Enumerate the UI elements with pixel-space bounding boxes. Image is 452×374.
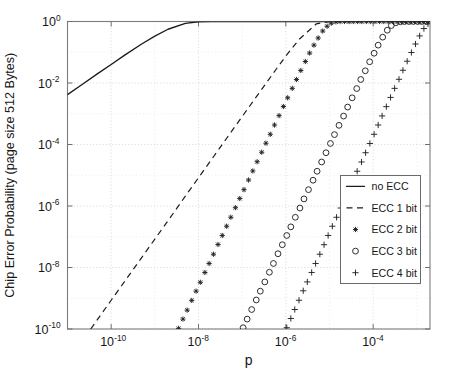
plus-marker bbox=[292, 306, 298, 312]
star-marker bbox=[359, 19, 364, 24]
plus-marker bbox=[333, 214, 339, 220]
plus-marker bbox=[354, 168, 360, 174]
plus-marker bbox=[358, 159, 364, 165]
tick-labels: 10-1010-810-610-410010-210-410-610-810-1… bbox=[35, 13, 384, 349]
plus-marker bbox=[387, 94, 393, 100]
star-marker bbox=[353, 227, 358, 232]
circle-marker bbox=[279, 242, 285, 248]
plus-marker bbox=[392, 85, 398, 91]
y-tick-exponent: -10 bbox=[49, 320, 61, 330]
plus-marker bbox=[396, 76, 402, 82]
plus-marker bbox=[379, 113, 385, 119]
y-tick-exponent: -2 bbox=[52, 74, 60, 84]
star-marker bbox=[259, 150, 264, 155]
star-marker bbox=[176, 326, 181, 331]
plus-marker bbox=[304, 279, 310, 285]
star-marker bbox=[189, 298, 194, 303]
star-marker bbox=[316, 35, 321, 40]
circle-marker bbox=[371, 50, 377, 56]
plus-marker bbox=[362, 150, 368, 156]
circle-marker bbox=[292, 214, 298, 220]
plus-marker bbox=[371, 131, 377, 137]
circle-marker bbox=[284, 233, 290, 239]
star-marker bbox=[237, 196, 242, 201]
y-tick-exponent: -6 bbox=[52, 197, 60, 207]
plus-marker bbox=[317, 251, 323, 257]
x-axis-label: p bbox=[245, 352, 253, 368]
star-marker bbox=[285, 95, 290, 100]
star-marker bbox=[298, 68, 303, 73]
y-tick-exponent: -4 bbox=[52, 136, 60, 146]
legend-label: ECC 2 bit bbox=[372, 223, 417, 235]
circle-marker bbox=[297, 205, 303, 211]
plus-marker bbox=[400, 67, 406, 73]
plus-marker bbox=[325, 232, 331, 238]
legend-label: ECC 3 bit bbox=[372, 245, 417, 257]
star-marker bbox=[372, 19, 377, 24]
star-marker bbox=[303, 59, 308, 64]
circle-marker bbox=[244, 316, 250, 322]
circle-marker bbox=[328, 141, 334, 147]
star-marker bbox=[342, 19, 347, 24]
star-marker bbox=[311, 43, 316, 48]
circle-marker bbox=[341, 113, 347, 119]
circle-marker bbox=[240, 325, 246, 331]
circle-marker bbox=[354, 86, 360, 92]
circle-marker bbox=[301, 196, 307, 202]
plus-marker bbox=[309, 269, 315, 275]
circle-marker bbox=[362, 68, 368, 74]
legend-label: ECC 4 bit bbox=[372, 267, 417, 279]
circle-marker bbox=[266, 269, 272, 275]
star-marker bbox=[250, 168, 255, 173]
circle-marker bbox=[358, 77, 364, 83]
y-tick-label: 10 bbox=[38, 77, 52, 91]
star-marker bbox=[185, 308, 190, 313]
circle-marker bbox=[249, 307, 255, 313]
circle-marker bbox=[380, 34, 386, 40]
y-tick-label: 10 bbox=[38, 138, 52, 152]
y-tick-label: 10 bbox=[38, 200, 52, 214]
plus-marker bbox=[404, 58, 410, 64]
circle-marker bbox=[332, 132, 338, 138]
plus-marker bbox=[412, 41, 418, 47]
plus-marker bbox=[300, 288, 306, 294]
circle-marker bbox=[336, 122, 342, 128]
circle-marker bbox=[367, 59, 373, 65]
figure-container: 10-1010-810-610-410010-210-410-610-810-1… bbox=[0, 0, 452, 374]
plus-marker bbox=[421, 25, 427, 31]
series-0 bbox=[68, 22, 431, 95]
circle-marker bbox=[288, 224, 294, 230]
data-layer bbox=[68, 19, 432, 331]
star-marker bbox=[241, 187, 246, 192]
star-marker bbox=[193, 289, 198, 294]
circle-marker bbox=[275, 251, 281, 257]
star-marker bbox=[255, 159, 260, 164]
star-marker bbox=[246, 177, 251, 182]
legend-label: ECC 1 bit bbox=[372, 202, 417, 214]
series-line bbox=[68, 22, 431, 95]
circle-marker bbox=[262, 279, 268, 285]
plus-marker bbox=[288, 315, 294, 321]
plus-marker bbox=[313, 260, 319, 266]
star-marker bbox=[180, 316, 185, 321]
x-tick-exponent: -8 bbox=[202, 333, 210, 343]
star-marker bbox=[263, 141, 268, 146]
star-marker bbox=[220, 233, 225, 238]
star-marker bbox=[268, 132, 273, 137]
legend-label: no ECC bbox=[372, 180, 409, 192]
star-marker bbox=[198, 280, 203, 285]
x-tick-exponent: -4 bbox=[376, 333, 384, 343]
circle-marker bbox=[345, 104, 351, 110]
y-tick-exponent: 0 bbox=[56, 13, 61, 23]
y-tick-label: 10 bbox=[35, 323, 49, 337]
circle-marker bbox=[306, 187, 312, 193]
circle-marker bbox=[375, 42, 381, 48]
x-tick-label: 10 bbox=[188, 335, 202, 349]
star-marker bbox=[215, 242, 220, 247]
plus-marker bbox=[296, 297, 302, 303]
star-marker bbox=[202, 270, 207, 275]
circle-marker bbox=[271, 261, 277, 267]
plus-marker bbox=[375, 122, 381, 128]
star-marker bbox=[276, 113, 281, 118]
circle-marker bbox=[314, 168, 320, 174]
